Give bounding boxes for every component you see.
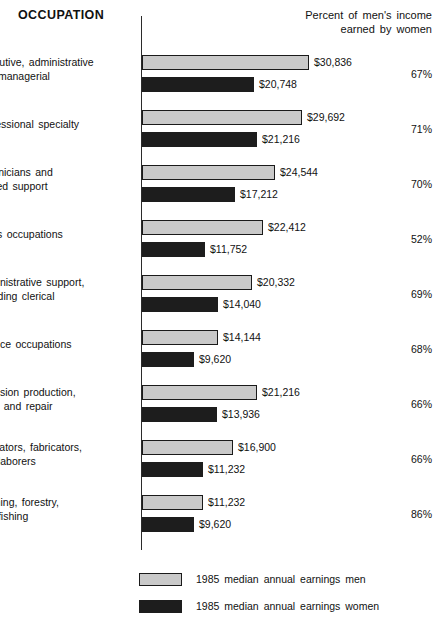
- bar-women: [142, 132, 257, 147]
- bar-group: Operators, fabricators,and laborers$16,9…: [0, 437, 446, 492]
- chart-plot-area: Executive, administrativeand managerial$…: [0, 0, 446, 560]
- category-label-line: Professional specialty: [0, 118, 136, 132]
- bar-group: Service occupations$14,144$9,62068%: [0, 327, 446, 382]
- bar-value-men: $29,692: [307, 110, 345, 125]
- category-label-line: Sales occupations: [0, 228, 136, 242]
- category-label-line: related support: [0, 180, 136, 194]
- bar-value-women: $20,748: [259, 77, 297, 92]
- bar-value-women: $21,216: [262, 132, 300, 147]
- percent-value: 67%: [372, 68, 432, 80]
- bar-women: [142, 187, 235, 202]
- bar-women: [142, 407, 217, 422]
- category-label: Service occupations: [0, 338, 136, 352]
- category-label-line: and fishing: [0, 510, 136, 524]
- percent-value: 71%: [372, 123, 432, 135]
- bar-men: [142, 55, 309, 70]
- bar-value-women: $9,620: [199, 517, 231, 532]
- bar-women: [142, 297, 218, 312]
- bar-group: Professional specialty$29,692$21,21671%: [0, 107, 446, 162]
- percent-value: 70%: [372, 178, 432, 190]
- bar-value-women: $9,620: [199, 352, 231, 367]
- bar-value-women: $14,040: [223, 297, 261, 312]
- bar-group: Technicians andrelated support$24,544$17…: [0, 162, 446, 217]
- category-label: Sales occupations: [0, 228, 136, 242]
- legend-row-men: 1985 median annual earnings men: [139, 572, 439, 592]
- legend-row-women: 1985 median annual earnings women: [139, 599, 439, 619]
- category-label: Operators, fabricators,and laborers: [0, 441, 136, 468]
- bar-value-women: $11,752: [210, 242, 247, 257]
- legend-label-men: 1985 median annual earnings men: [196, 572, 366, 587]
- bar-men: [142, 275, 252, 290]
- percent-value: 66%: [372, 453, 432, 465]
- bar-group: Precision production,craft, and repair$2…: [0, 382, 446, 437]
- bar-women: [142, 242, 205, 257]
- category-label-line: Service occupations: [0, 338, 136, 352]
- bar-group: Sales occupations$22,412$11,75252%: [0, 217, 446, 272]
- category-label-line: Administrative support,: [0, 276, 136, 290]
- category-label-line: Farming, forestry,: [0, 496, 136, 510]
- category-label-line: Technicians and: [0, 166, 136, 180]
- percent-value: 86%: [372, 508, 432, 520]
- percent-value: 66%: [372, 398, 432, 410]
- bar-value-men: $14,144: [223, 330, 261, 345]
- bar-women: [142, 77, 254, 92]
- percent-value: 68%: [372, 343, 432, 355]
- bar-men: [142, 495, 203, 510]
- category-label-line: craft, and repair: [0, 400, 136, 414]
- bar-group: Farming, forestry,and fishing$11,232$9,6…: [0, 492, 446, 547]
- bar-value-men: $21,216: [262, 385, 300, 400]
- bar-value-men: $24,544: [280, 165, 318, 180]
- legend-swatch-men-icon: [139, 573, 182, 586]
- bar-women: [142, 517, 194, 532]
- legend-swatch-women-icon: [139, 600, 182, 613]
- category-label-line: and managerial: [0, 70, 136, 84]
- bar-group: Administrative support,including clerica…: [0, 272, 446, 327]
- bar-value-women: $13,936: [222, 407, 260, 422]
- bar-value-men: $30,836: [314, 55, 352, 70]
- category-label-line: Precision production,: [0, 386, 136, 400]
- bar-men: [142, 385, 257, 400]
- category-label: Administrative support,including clerica…: [0, 276, 136, 303]
- bar-women: [142, 352, 194, 367]
- category-label: Technicians andrelated support: [0, 166, 136, 193]
- category-label: Precision production,craft, and repair: [0, 386, 136, 413]
- bar-women: [142, 462, 203, 477]
- bar-men: [142, 220, 263, 235]
- bar-value-women: $11,232: [208, 462, 245, 477]
- bar-men: [142, 110, 302, 125]
- chart-legend: 1985 median annual earnings men 1985 med…: [139, 572, 439, 625]
- bar-men: [142, 165, 275, 180]
- bar-value-men: $20,332: [257, 275, 295, 290]
- bar-men: [142, 330, 218, 345]
- bar-value-men: $11,232: [208, 495, 245, 510]
- bar-value-men: $16,900: [238, 440, 276, 455]
- category-label-line: including clerical: [0, 290, 136, 304]
- category-label-line: Operators, fabricators,: [0, 441, 136, 455]
- bar-value-women: $17,212: [240, 187, 278, 202]
- percent-value: 52%: [372, 233, 432, 245]
- category-label: Farming, forestry,and fishing: [0, 496, 136, 523]
- category-label-line: Executive, administrative: [0, 56, 136, 70]
- legend-label-women: 1985 median annual earnings women: [196, 599, 379, 614]
- bar-value-men: $22,412: [268, 220, 306, 235]
- category-label: Executive, administrativeand managerial: [0, 56, 136, 83]
- category-label: Professional specialty: [0, 118, 136, 132]
- category-label-line: and laborers: [0, 455, 136, 469]
- bar-men: [142, 440, 233, 455]
- bar-group: Executive, administrativeand managerial$…: [0, 52, 446, 107]
- percent-value: 69%: [372, 288, 432, 300]
